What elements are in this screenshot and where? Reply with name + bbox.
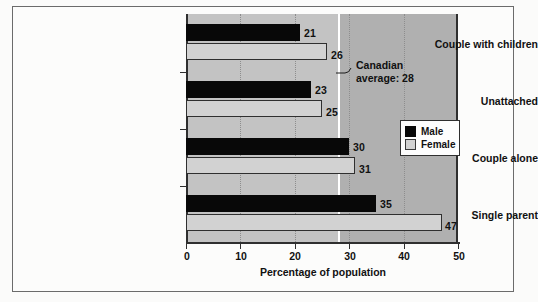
- xtick-label-0: 0: [184, 250, 190, 262]
- legend-item-male: Male: [405, 125, 454, 138]
- bar-male-couple-alone: [186, 138, 349, 155]
- annotation-line-1: Canadian: [356, 59, 414, 72]
- xtick-mark-50: [458, 244, 459, 249]
- xtick-mark-30: [349, 244, 350, 249]
- bar-value-female-single-parent: 47: [445, 220, 457, 232]
- bar-male-couple-with-children: [186, 24, 300, 41]
- bar-value-male-couple-alone: 30: [353, 141, 365, 153]
- bar-female-couple-with-children: [186, 43, 327, 60]
- legend-swatch-male-icon: [405, 126, 416, 137]
- category-label-couple-with-children: Couple with children: [368, 38, 538, 50]
- bar-value-male-couple-with-children: 21: [304, 27, 316, 39]
- xtick-mark-10: [240, 244, 241, 249]
- canadian-average-annotation: Canadian average: 28: [356, 59, 414, 85]
- legend: Male Female: [400, 120, 460, 156]
- xtick-mark-40: [404, 244, 405, 249]
- bar-value-female-couple-with-children: 26: [331, 49, 343, 61]
- bar-female-single-parent: [186, 214, 442, 231]
- annotation-line-2: average: 28: [356, 72, 414, 85]
- bar-female-unattached: [186, 100, 322, 117]
- legend-item-female: Female: [405, 138, 454, 151]
- chart-figure: Couple with children 21 26 Unattached 23…: [0, 0, 538, 302]
- xtick-mark-0: [186, 244, 187, 249]
- xtick-mark-20: [295, 244, 296, 249]
- bar-value-male-single-parent: 35: [380, 198, 392, 210]
- xtick-label-10: 10: [235, 250, 247, 262]
- bar-value-male-unattached: 23: [315, 84, 327, 96]
- legend-label-female: Female: [421, 139, 455, 150]
- category-tick-3: [180, 186, 186, 187]
- category-tick-2: [180, 129, 186, 130]
- xtick-label-30: 30: [344, 250, 356, 262]
- category-label-unattached: Unattached: [368, 95, 538, 107]
- xtick-label-50: 50: [453, 250, 465, 262]
- bar-value-female-couple-alone: 31: [359, 163, 371, 175]
- legend-swatch-female-icon: [405, 139, 416, 150]
- bar-male-single-parent: [186, 195, 376, 212]
- x-axis-spine: [186, 242, 460, 244]
- legend-label-male: Male: [421, 126, 443, 137]
- bar-male-unattached: [186, 81, 311, 98]
- bar-value-female-unattached: 25: [326, 106, 338, 118]
- bar-female-couple-alone: [186, 157, 355, 174]
- xtick-label-40: 40: [398, 250, 410, 262]
- x-axis-label: Percentage of population: [186, 266, 460, 278]
- xtick-label-20: 20: [289, 250, 301, 262]
- category-tick-1: [180, 72, 186, 73]
